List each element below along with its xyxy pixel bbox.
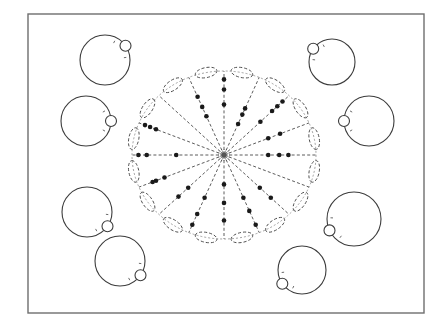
ring-diagram — [0, 0, 445, 324]
spoke-dot — [258, 119, 263, 124]
rim-petal — [137, 190, 158, 214]
spoke-dot — [236, 122, 241, 127]
spoke-dot — [266, 136, 271, 141]
spoke-dot — [195, 95, 200, 100]
spoke-dot — [200, 105, 205, 110]
spoke-dot — [280, 99, 285, 104]
satellite-knob-circle — [106, 116, 117, 127]
spoke-dot — [286, 153, 291, 158]
spoke-dot — [143, 123, 148, 128]
hub-center — [222, 153, 226, 157]
spoke-dot — [258, 185, 263, 190]
satellite-tick-mark — [350, 111, 352, 112]
satellite-top-left-1 — [80, 35, 131, 85]
spoke-dot — [240, 112, 245, 117]
spoke-dot — [176, 194, 181, 199]
spoke-dot — [222, 87, 227, 92]
satellite-bottom-left-1 — [62, 187, 113, 237]
satellite-knob-circle — [339, 116, 350, 127]
spoke-dot — [202, 195, 207, 200]
satellite-top-right-1 — [308, 39, 355, 85]
satellite-tick-mark — [96, 229, 97, 231]
satellite-outer-circle — [344, 96, 394, 146]
spoke-dots — [136, 77, 291, 227]
satellite-top-right-2 — [339, 96, 395, 146]
satellite-outer-circle — [327, 192, 381, 246]
spoke-dot — [154, 127, 159, 132]
satellite-tick-mark — [293, 286, 294, 288]
satellite-tick-mark — [103, 130, 105, 131]
spoke-line — [159, 96, 224, 155]
satellite-tick-mark — [103, 111, 105, 112]
spoke-dot — [148, 125, 153, 130]
rim-petal — [127, 160, 141, 184]
rim-petal — [137, 96, 158, 120]
spoke-dot — [277, 153, 282, 158]
satellite-bottom-left-2 — [95, 236, 146, 286]
satellite-knob-circle — [120, 40, 131, 51]
spoke-dot — [186, 185, 191, 190]
spoke-dot — [195, 212, 200, 217]
satellite-tick-mark — [350, 130, 352, 131]
spoke-line — [159, 155, 224, 214]
center-hub — [218, 149, 230, 161]
satellite-knob-circle — [277, 278, 288, 289]
spoke-dot — [253, 223, 258, 228]
spoke-line — [224, 155, 289, 214]
spoke-dot — [136, 153, 141, 158]
spoke-line — [224, 96, 289, 155]
satellite-circles — [61, 35, 394, 294]
spoke-dot — [266, 153, 271, 158]
satellite-knob-circle — [308, 43, 319, 54]
spoke-dot — [222, 102, 227, 107]
spoke-dot — [222, 218, 227, 223]
rim-petal — [161, 215, 185, 236]
spoke-dot — [270, 109, 275, 114]
satellite-tick-mark — [340, 236, 342, 238]
spoke-dot — [247, 209, 252, 214]
satellite-tick-mark — [129, 278, 130, 280]
satellite-bottom-right-1 — [324, 192, 381, 246]
spoke-dot — [150, 180, 155, 185]
spoke-dot — [222, 182, 227, 187]
satellite-bottom-right-2 — [277, 246, 326, 294]
spoke-dot — [222, 77, 227, 82]
spoke-dot — [278, 132, 283, 137]
spoke-dot — [241, 195, 246, 200]
satellite-knob-circle — [102, 221, 113, 232]
spoke-dot — [162, 175, 167, 180]
spoke-line — [224, 155, 309, 187]
spoke-dot — [190, 223, 195, 228]
satellite-tick-mark — [114, 41, 115, 43]
rim-petal — [307, 127, 321, 151]
satellite-top-left-2 — [61, 96, 117, 146]
satellite-tick-mark — [323, 45, 324, 47]
spoke-dot — [222, 201, 227, 206]
satellite-knob-circle — [324, 225, 335, 236]
spoke-dot — [174, 153, 179, 158]
spoke-dot — [269, 196, 274, 201]
spoke-dot — [243, 106, 248, 111]
rim-petal — [290, 96, 311, 120]
satellite-outer-circle — [61, 96, 111, 146]
diagram-frame — [28, 14, 424, 313]
spoke-dot — [144, 153, 149, 158]
rim-petal — [263, 75, 287, 96]
spoke-dot — [204, 114, 209, 119]
satellite-knob-circle — [135, 270, 146, 281]
spoke-dot — [275, 104, 280, 109]
